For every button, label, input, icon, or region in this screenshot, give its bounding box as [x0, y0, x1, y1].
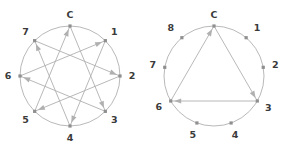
- node-label-3: 3: [111, 114, 118, 125]
- node-label-8: 8: [168, 22, 175, 33]
- node-label-6: 6: [5, 70, 12, 81]
- diagram-canvas: C1234567 C12345678: [0, 0, 285, 154]
- node-dot-6[interactable]: [18, 74, 21, 77]
- outer-circle: [164, 26, 264, 126]
- node-label-2: 2: [272, 59, 279, 70]
- node-dot-4[interactable]: [68, 124, 71, 127]
- node-dot-C[interactable]: [212, 24, 215, 27]
- node-dot-C[interactable]: [68, 24, 71, 27]
- node-label-3: 3: [265, 102, 272, 113]
- edge-group: [171, 26, 258, 104]
- node-label-2: 2: [129, 70, 136, 81]
- eight-point-star-diagram: C1234567: [0, 0, 143, 154]
- node-dot-2[interactable]: [262, 66, 265, 69]
- octagram-svg: C1234567: [0, 0, 143, 154]
- node-label-C: C: [67, 9, 74, 20]
- node-label-7: 7: [149, 59, 156, 70]
- enneagram-svg: C12345678: [143, 0, 285, 154]
- node-dot-1[interactable]: [245, 36, 248, 39]
- arrowhead-to-C: [64, 29, 69, 36]
- arrowhead-to-7: [36, 44, 41, 51]
- node-label-7: 7: [22, 26, 29, 37]
- node-dot-4[interactable]: [230, 121, 233, 124]
- node-dot-6[interactable]: [169, 99, 172, 102]
- node-label-5: 5: [190, 129, 197, 140]
- node-label-6: 6: [155, 101, 162, 112]
- arrowhead-to-C: [206, 29, 212, 36]
- node-label-4: 4: [67, 132, 74, 143]
- arrowhead-to-3: [99, 101, 104, 108]
- node-label-C: C: [211, 9, 218, 20]
- arrowhead-to-4: [71, 115, 76, 122]
- node-dot-2[interactable]: [118, 74, 121, 77]
- arrowhead-to-6: [23, 77, 30, 82]
- edge-C-to-3: [214, 26, 257, 101]
- node-label-1: 1: [111, 26, 118, 37]
- node-dot-7[interactable]: [163, 66, 166, 69]
- arrowhead-to-5: [38, 105, 45, 110]
- node-label-5: 5: [22, 114, 29, 125]
- node-label-4: 4: [232, 129, 239, 140]
- arrowhead-to-3: [250, 91, 256, 98]
- node-label-1: 1: [254, 22, 261, 33]
- node-dot-1[interactable]: [104, 39, 107, 42]
- arrowhead-to-1: [95, 42, 102, 47]
- node-dot-5[interactable]: [33, 110, 36, 113]
- nine-point-triangle-diagram: C12345678: [143, 0, 285, 154]
- node-dot-5[interactable]: [195, 121, 198, 124]
- arrowhead-to-2: [109, 70, 116, 75]
- node-dot-8[interactable]: [180, 36, 183, 39]
- node-dot-3[interactable]: [256, 99, 259, 102]
- edge-6-to-C: [171, 26, 214, 101]
- node-dot-7[interactable]: [33, 39, 36, 42]
- node-dot-3[interactable]: [104, 110, 107, 113]
- arrowhead-to-6: [174, 98, 181, 103]
